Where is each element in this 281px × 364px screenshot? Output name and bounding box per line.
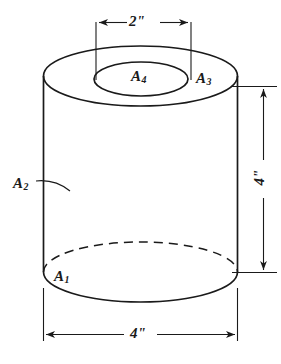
diagram-canvas [0, 0, 281, 364]
bottom-ellipse-front [44, 272, 238, 302]
area-label-a1-subscript: 1 [64, 274, 69, 285]
a2-leader-line [36, 181, 70, 191]
area-label-a2: A2 [13, 176, 29, 191]
area-label-a2-text: A [13, 175, 23, 191]
area-label-a2-subscript: 2 [23, 181, 28, 192]
area-label-a3-text: A [196, 70, 206, 86]
cylinder-diagram: A1 A2 A3 A4 2" 4" 4" [0, 0, 281, 364]
area-label-a3: A3 [196, 71, 212, 86]
area-label-a1-text: A [54, 268, 64, 284]
area-label-a4-text: A [131, 68, 141, 84]
area-label-a1: A1 [54, 269, 70, 284]
dimension-top-label: 2" [129, 14, 145, 29]
area-label-a3-subscript: 3 [206, 76, 211, 87]
area-label-a4-subscript: 4 [141, 74, 146, 85]
dimension-bottom-label: 4" [130, 326, 146, 341]
dimension-right-label: 4" [252, 170, 267, 186]
bottom-ellipse-hidden [44, 242, 238, 272]
area-label-a4: A4 [131, 69, 147, 84]
